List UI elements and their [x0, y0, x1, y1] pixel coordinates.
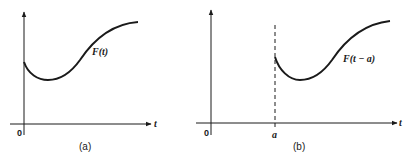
curve-label: F(t) — [91, 46, 108, 58]
caption-a: (a) — [79, 141, 91, 152]
shift-label: a — [272, 129, 277, 140]
figure: F(t) t 0 (a) F(t − a) t 0 a (b) — [0, 0, 409, 158]
origin-label: 0 — [204, 128, 209, 138]
origin-label: 0 — [17, 128, 22, 138]
x-axis-label: t — [399, 117, 403, 128]
curve-f-t — [24, 22, 138, 80]
panel-a: F(t) t 0 (a) — [10, 12, 158, 152]
caption-b: (b) — [293, 141, 305, 152]
curve-label: F(t − a) — [342, 53, 375, 65]
panel-b: F(t − a) t 0 a (b) — [196, 10, 403, 152]
curve-f-t-minus-a — [275, 21, 390, 80]
x-axis-label: t — [154, 118, 158, 129]
